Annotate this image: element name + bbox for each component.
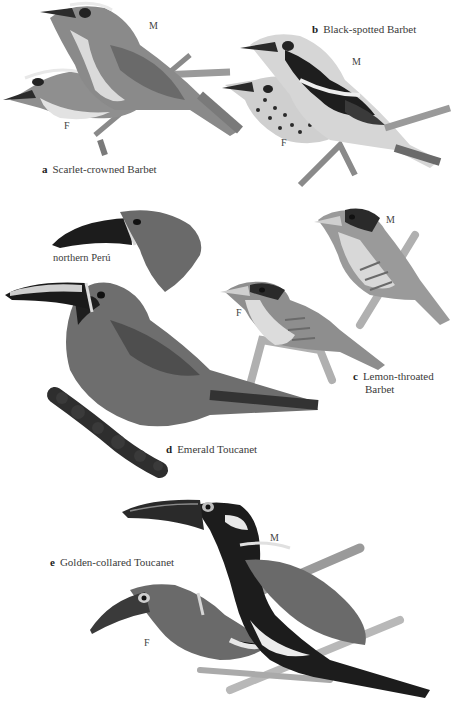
species-letter: a bbox=[42, 163, 48, 175]
species-letter: d bbox=[166, 443, 172, 455]
species-letter: c bbox=[353, 370, 358, 382]
caption-black-spotted-barbet: bBlack-spotted Barbet bbox=[312, 23, 416, 36]
species-name: Golden-collared Toucanet bbox=[60, 556, 174, 568]
species-name: Scarlet-crowned Barbet bbox=[53, 163, 157, 175]
species-name: Emerald Toucanet bbox=[177, 443, 257, 455]
black-spotted-barbet-illustration bbox=[222, 34, 450, 185]
male-label-b: M bbox=[352, 56, 361, 67]
female-label-b: F bbox=[281, 137, 287, 148]
male-label-e: M bbox=[270, 532, 279, 543]
illustration-plate: M F aScarlet-crowned Barbet bBlack-spott… bbox=[0, 0, 454, 705]
species-letter: b bbox=[312, 23, 318, 35]
species-name: Black-spotted Barbet bbox=[323, 23, 416, 35]
caption-scarlet-crowned-barbet: aScarlet-crowned Barbet bbox=[42, 163, 157, 176]
caption-golden-collared-toucanet: eGolden-collared Toucanet bbox=[50, 556, 174, 569]
bird-illustrations bbox=[0, 0, 454, 705]
male-label-c: M bbox=[386, 214, 395, 225]
scarlet-crowned-barbet-illustration bbox=[3, 3, 240, 155]
female-label-c: F bbox=[236, 307, 242, 318]
species-name-line1: Lemon-throated bbox=[363, 370, 434, 382]
female-label-a: F bbox=[64, 120, 70, 131]
species-letter: e bbox=[50, 556, 55, 568]
caption-northern-peru: northern Perú bbox=[53, 251, 110, 264]
species-name-line2: Barbet bbox=[353, 383, 394, 395]
golden-collared-toucanet-illustration bbox=[90, 500, 430, 698]
caption-lemon-throated-barbet: cLemon-throated Barbet bbox=[353, 370, 434, 396]
male-label-a: M bbox=[149, 20, 158, 31]
lemon-throated-barbet-illustration bbox=[220, 209, 450, 385]
female-label-e: F bbox=[144, 637, 150, 648]
caption-emerald-toucanet: dEmerald Toucanet bbox=[166, 443, 257, 456]
